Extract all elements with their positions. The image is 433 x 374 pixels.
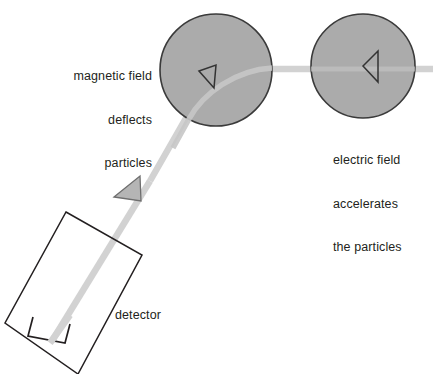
beam-endpoint-in-detector [50,315,70,343]
magnetic-field-label-line1: magnetic field [0,69,152,84]
magnetic-field-label-line2: deflects [0,113,152,128]
detector-outline [5,212,142,374]
magnetic-field-label-line3: particles [0,156,152,171]
diagram-canvas: magnetic field deflects particles electr… [0,0,433,374]
detector-group[interactable] [5,212,142,374]
electric-field-label: electric field accelerates the particles [333,124,433,284]
electric-field-region[interactable] [311,14,415,118]
electric-field-label-line3: the particles [333,240,433,255]
magnetic-field-label: magnetic field deflects particles [0,40,152,200]
detector-label: detector [115,308,195,323]
electric-field-label-line2: accelerates [333,197,433,212]
electric-field-label-line1: electric field [333,153,433,168]
